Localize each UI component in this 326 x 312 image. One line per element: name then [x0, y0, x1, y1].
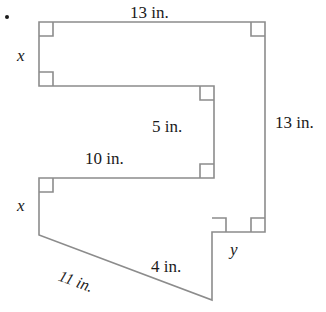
right-angle-top-right — [251, 22, 265, 36]
label-top-13in: 13 in. — [130, 4, 169, 21]
right-angle-top-left — [39, 22, 53, 36]
label-4in: 4 in. — [151, 258, 181, 275]
right-angle-lower-left — [39, 178, 53, 192]
right-angle-notch-upper — [200, 86, 214, 100]
label-y: y — [230, 241, 238, 258]
label-left-x-bot: x — [17, 197, 25, 214]
right-angle-step-inner — [212, 218, 226, 232]
right-angle-step-outer — [251, 218, 265, 232]
label-10in: 10 in. — [85, 150, 124, 167]
label-5in: 5 in. — [152, 118, 182, 135]
right-angle-notch-lower — [200, 164, 214, 178]
problem-bullet-icon — [5, 15, 9, 19]
right-angle-mid-left-lower — [39, 72, 53, 86]
label-right-13in: 13 in. — [275, 114, 314, 131]
label-left-x-top: x — [17, 47, 25, 64]
